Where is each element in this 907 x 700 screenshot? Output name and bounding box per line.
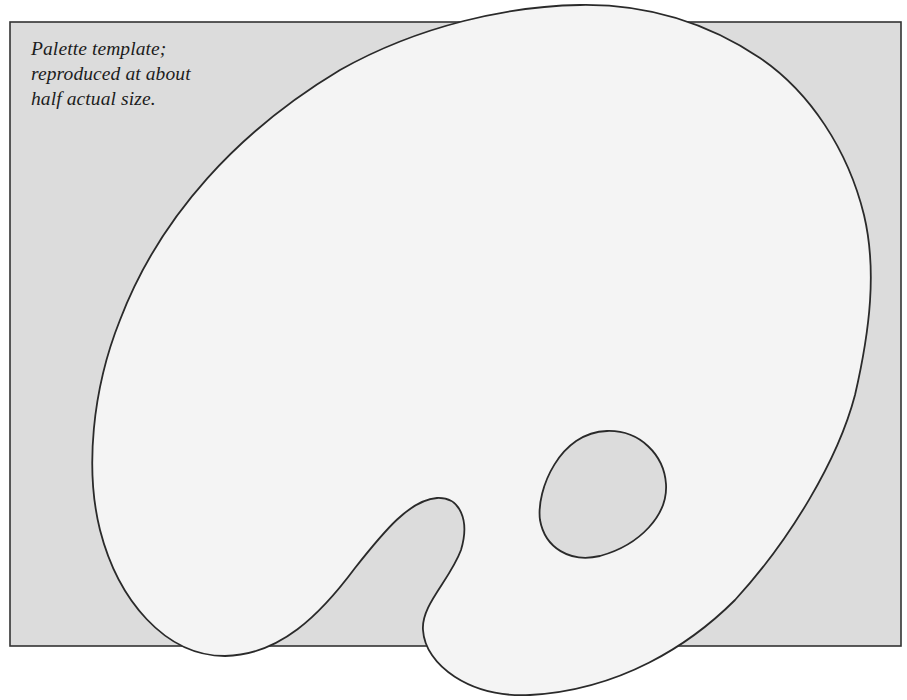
figure-caption: Palette template; reproduced at about ha… (31, 36, 191, 111)
caption-line-2: reproduced at about (31, 61, 191, 86)
caption-line-1: Palette template; (31, 36, 191, 61)
caption-line-3: half actual size. (31, 86, 191, 111)
